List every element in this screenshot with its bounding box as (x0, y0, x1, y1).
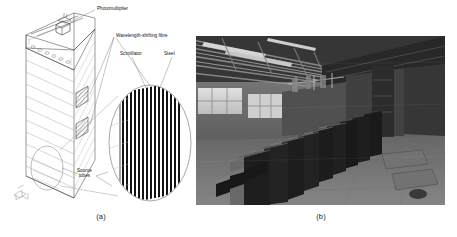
label-steel: Steel (164, 51, 175, 56)
panel-a-line-drawing: Photomultiplier Wavelength-shifting fibr… (0, 0, 200, 237)
caption-panel-b: (b) (316, 212, 325, 221)
inset-label-leaders (116, 38, 172, 88)
label-photomultiplier: Photomultiplier (97, 6, 128, 11)
label-source-tubes: Source tubes (77, 168, 92, 179)
fibre-window-patches (76, 86, 88, 139)
magnifier-source-ellipse (31, 146, 63, 190)
caption-panel-a: (a) (96, 212, 105, 221)
label-wavelength-shifting-fibre: Wavelength-shifting fibre (116, 33, 168, 38)
label-scintillator: Scintillator (120, 51, 142, 56)
wls-leader-line (90, 37, 114, 125)
magnified-inset (109, 38, 191, 205)
panel-b-photograph (196, 36, 445, 205)
label-source-tubes-line2: tubes (77, 173, 92, 178)
detector-schematic-svg (0, 0, 200, 237)
assembly-hall-photo (196, 36, 445, 205)
assembly-hall-photo-render (196, 36, 445, 205)
axis-marker-icon (14, 185, 28, 200)
figure-root: Photomultiplier Wavelength-shifting fibr… (0, 0, 457, 237)
